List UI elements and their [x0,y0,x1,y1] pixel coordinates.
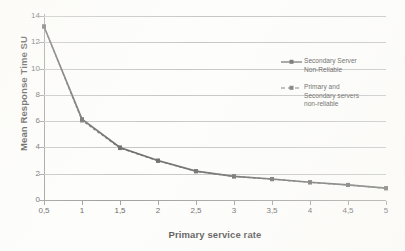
x-axis-tick [310,201,311,205]
x-axis-tick [196,201,197,205]
y-axis-tick [39,200,44,201]
y-axis-tick-label: 4 [20,143,40,151]
chart-legend: Secondary ServerNon-ReliablePrimary andS… [281,57,393,118]
legend-label-1-line2: Secondary servers [304,92,393,101]
y-axis-tick-label: 6 [20,117,40,125]
x-axis-tick-label: 3 [222,206,246,215]
y-axis-tick-labels: 02468101214 [16,0,40,200]
x-axis-tick [234,201,235,205]
legend-label-1-line3: non-reliable [304,100,393,109]
legend-label-1-line1: Primary and [304,83,393,92]
y-axis-tick [39,42,44,43]
x-axis-line [44,200,386,201]
y-axis-tick-label: 14 [20,12,40,20]
x-axis-tick-label: 1,5 [108,206,132,215]
y-axis-tick [39,69,44,70]
x-axis-tick [348,201,349,205]
legend-swatch-0 [281,59,302,65]
y-axis-tick [39,95,44,96]
x-axis-tick [386,201,387,205]
y-axis-tick [39,174,44,175]
x-axis-tick-label: 2,5 [184,206,208,215]
y-axis-tick-label: 0 [20,196,40,204]
y-axis-tick [39,147,44,148]
y-axis-tick [39,16,44,17]
x-axis-tick-label: 2 [146,206,170,215]
x-axis-tick-label: 3,5 [260,206,284,215]
series-marker-0 [156,159,160,163]
x-axis-tick [120,201,121,205]
series-marker-0 [118,145,122,149]
x-axis-tick-label: 4,5 [336,206,360,215]
series-marker-0 [194,169,198,173]
x-axis-tick-label: 4 [298,206,322,215]
x-axis-tick [272,201,273,205]
y-axis-tick [39,121,44,122]
x-axis-tick [82,201,83,205]
chart-figure: Mean Response Time SU 02468101214 0,511,… [0,0,405,251]
x-axis-tick-label: 0,5 [32,206,56,215]
y-axis-tick-label: 8 [20,91,40,99]
series-marker-0 [42,25,46,29]
legend-label-0-line2: Non-Reliable [304,66,393,75]
legend-entry-0: Secondary ServerNon-Reliable [281,57,393,74]
x-axis-tick [158,201,159,205]
legend-label-0-line1: Secondary Server [304,57,393,66]
x-axis-title: Primary service rate [44,229,386,240]
series-marker-0 [384,186,388,190]
legend-swatch-1 [281,85,302,91]
y-axis-tick-label: 10 [20,65,40,73]
y-axis-tick-label: 2 [20,170,40,178]
series-marker-0 [346,183,350,187]
series-marker-0 [308,180,312,184]
series-marker-0 [80,117,84,121]
series-marker-0 [232,174,236,178]
x-axis-tick-label: 1 [70,206,94,215]
y-axis-tick-label: 12 [20,38,40,46]
series-marker-0 [270,177,274,181]
x-axis-tick-label: 5 [374,206,398,215]
legend-entry-1: Primary andSecondary serversnon-reliable [281,83,393,109]
x-axis-tick [44,201,45,205]
